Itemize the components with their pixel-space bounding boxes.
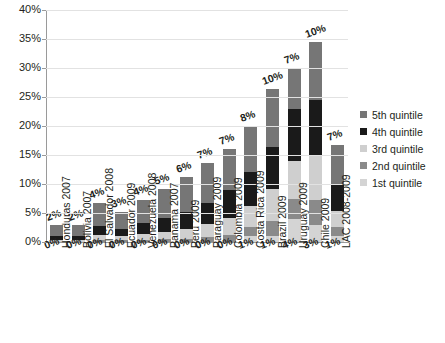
- legend-item[interactable]: 2nd quintile: [360, 157, 426, 174]
- y-axis-tick-label: 25%: [19, 91, 41, 102]
- y-axis-tick-mark: [42, 97, 46, 98]
- y-axis-tick-label: 15%: [19, 149, 41, 160]
- y-axis-tick-mark: [42, 39, 46, 40]
- chart-legend: 5th quintile4th quintile3rd quintile2nd …: [360, 106, 426, 191]
- bar-segment: [266, 89, 279, 147]
- legend-item[interactable]: 5th quintile: [360, 106, 426, 123]
- legend-swatch-icon: [360, 162, 367, 169]
- y-axis-tick-mark: [42, 242, 46, 243]
- bar-segment: [244, 126, 257, 172]
- x-axis-category-label: Bolivia 2007: [82, 191, 93, 248]
- x-axis-category-label: Peru 2009: [190, 200, 201, 248]
- y-axis-tick-label: 5%: [25, 207, 41, 218]
- gridline: [46, 39, 348, 40]
- x-axis-category-label: Venezuela 2008: [147, 173, 158, 248]
- y-axis-tick-label: 35%: [19, 33, 41, 44]
- legend-item[interactable]: 1st quintile: [360, 174, 426, 191]
- x-axis-category-label: Colombia 2009: [233, 177, 244, 248]
- x-axis-category-label: LAC 2008-2009: [341, 174, 352, 248]
- gridline: [46, 10, 348, 11]
- bar-top-value-label: 10%: [261, 70, 284, 87]
- bar-top-value-label: 10%: [304, 22, 327, 39]
- bar-top-value-label: 7%: [282, 50, 300, 65]
- x-axis-category-label: Honduras 2007: [61, 176, 72, 248]
- bar-top-value-label: 6%: [174, 159, 192, 174]
- y-axis-tick-mark: [42, 126, 46, 127]
- bar-segment: [309, 100, 322, 155]
- bar-segment: [288, 68, 301, 109]
- legend-item[interactable]: 4th quintile: [360, 123, 426, 140]
- y-axis-tick-label: 10%: [19, 178, 41, 189]
- x-axis-category-label: Paraguay 2009: [212, 177, 223, 248]
- legend-swatch-icon: [360, 111, 367, 118]
- x-axis-category-label: Ecuador 2009: [126, 183, 137, 248]
- y-axis: 0%5%10%15%20%25%30%35%40%: [0, 0, 46, 242]
- legend-item-label: 2nd quintile: [372, 160, 426, 172]
- y-axis-tick-label: 30%: [19, 62, 41, 73]
- y-axis-tick-mark: [42, 10, 46, 11]
- x-axis-category-labels: Honduras 2007Bolivia 2007El Salvador 200…: [46, 246, 348, 342]
- y-axis-tick-label: 40%: [19, 4, 41, 15]
- bar-segment: [309, 155, 322, 200]
- legend-swatch-icon: [360, 128, 367, 135]
- bar-top-value-label: 7%: [196, 145, 214, 160]
- legend-item-label: 5th quintile: [372, 109, 423, 121]
- gridline: [46, 155, 348, 156]
- legend-item[interactable]: 3rd quintile: [360, 140, 426, 157]
- bar-top-value-label: 7%: [217, 132, 235, 147]
- y-axis-tick-mark: [42, 184, 46, 185]
- legend-item-label: 1st quintile: [372, 177, 422, 189]
- bar-top-value-label: 8%: [239, 108, 257, 123]
- y-axis-tick-mark: [42, 155, 46, 156]
- y-axis-tick-mark: [42, 68, 46, 69]
- gridline: [46, 97, 348, 98]
- legend-swatch-icon: [360, 145, 367, 152]
- gridline: [46, 126, 348, 127]
- x-axis-category-label: Chile 2009: [320, 198, 331, 248]
- x-axis-category-label: El Salvador 2008: [104, 168, 115, 248]
- bar-segment: [288, 109, 301, 161]
- x-axis-category-label: Brazil 2009: [277, 195, 288, 248]
- stacked-bar-chart: 0%5%10%15%20%25%30%35%40% 2%0%2%0%4%0%3%…: [0, 0, 445, 343]
- gridline: [46, 68, 348, 69]
- x-axis-category-label: Uruguay 2009: [298, 182, 309, 248]
- y-axis-tick-label: 20%: [19, 120, 41, 131]
- x-axis-category-label: Costa Rica 2009: [255, 170, 266, 248]
- legend-item-label: 4th quintile: [372, 126, 423, 138]
- legend-item-label: 3rd quintile: [372, 143, 423, 155]
- bar-segment: [266, 147, 279, 189]
- legend-swatch-icon: [360, 179, 367, 186]
- y-axis-tick-label: 0%: [25, 236, 41, 247]
- y-axis-tick-mark: [42, 213, 46, 214]
- x-axis-category-label: Panama 2007: [169, 183, 180, 248]
- bar-top-value-label: 7%: [325, 127, 343, 142]
- bar-segment: [309, 42, 322, 100]
